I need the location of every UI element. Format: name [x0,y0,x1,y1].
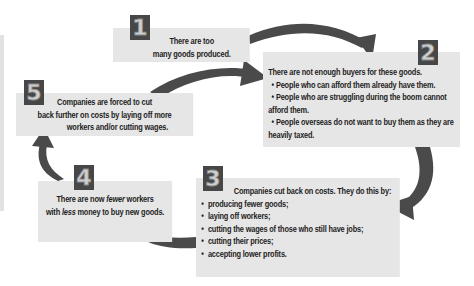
step-3-badge: 3 [203,166,223,191]
step-3-bullet: producing fewer goods; [201,198,395,211]
step-2-bullet: • People who can afford them already hav… [268,79,455,92]
step-4-line-1: There are now fewer workers [41,193,168,206]
step-5-line: back further on costs by laying off more [19,109,189,122]
arrow-1-to-2 [248,24,368,48]
step-3-bullet: cutting the wages of those who still hav… [201,223,395,236]
text: with [46,207,62,217]
step-1-line: There are too [137,35,246,48]
step-2-bullet-cont: heavily taxed. [268,129,455,142]
step-5-badge: 5 [24,80,44,105]
step-1-line: many goods produced. [137,48,246,61]
step-2-badge: 2 [418,40,438,65]
step-3-bullet: laying off workers; [201,210,395,223]
step-2-bullet: • People overseas do not want to buy the… [268,116,455,129]
step-5-line: workers and/or cutting wages. [19,121,189,134]
step-5-line: Companies are forced to cut [19,96,189,109]
step-2-bullet: • People who are struggling during the b… [268,91,455,104]
text: There are now [56,194,106,204]
step-4-box: There are now fewer workers with less mo… [38,181,172,242]
step-2-title: There are not enough buyers for these go… [268,66,455,79]
step-3-box: Companies cut back on costs. They do thi… [196,178,400,277]
step-1-badge: 1 [130,15,150,40]
step-3-bullet: cutting their prices; [201,235,395,248]
emphasis-less: less [62,207,76,217]
text: money to buy new goods. [76,207,165,217]
step-4-badge: 4 [74,165,94,190]
arrow-4-to-5 [39,143,64,181]
step-2-box: There are not enough buyers for these go… [263,52,460,147]
step-2-bullet-cont: afford them. [268,104,455,117]
step-3-list: producing fewer goods; laying off worker… [201,198,395,261]
step-3-bullet: accepting lower profits. [201,248,395,261]
step-3-title: Companies cut back on costs. They do thi… [201,185,395,198]
step-4-line-2: with less money to buy new goods. [41,206,168,219]
text: workers [125,194,154,204]
emphasis-fewer: fewer [106,194,124,204]
